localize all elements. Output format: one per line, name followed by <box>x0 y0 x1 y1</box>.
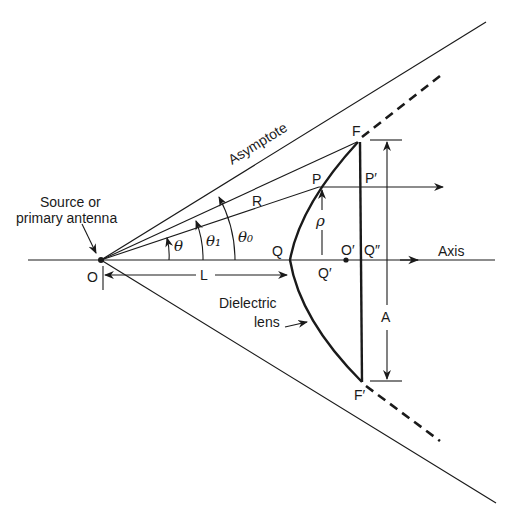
source-point <box>98 257 104 263</box>
label-Q-prime: Q′ <box>318 265 332 281</box>
hyperbola-extension-lower <box>366 386 440 441</box>
label-F-prime: F′ <box>354 387 366 403</box>
label-theta0: θ₀ <box>238 228 253 246</box>
upper-asymptote <box>101 22 486 260</box>
focus-point-O-prime <box>343 257 348 262</box>
label-Q-double-prime: Q″ <box>364 242 380 258</box>
label-theta1: θ₁ <box>206 232 221 250</box>
label-O-prime: O′ <box>341 242 355 258</box>
label-rho: ρ <box>315 212 325 230</box>
label-lens: lens <box>254 314 280 330</box>
label-asymptote: Asymptote <box>225 119 290 167</box>
label-A: A <box>381 309 391 325</box>
label-primary-antenna: primary antenna <box>16 210 117 226</box>
label-source: Source or <box>40 194 101 210</box>
lens-flat-face <box>360 142 362 382</box>
label-F: F <box>352 123 361 139</box>
label-dielectric: Dielectric <box>219 295 277 311</box>
label-L: L <box>200 267 208 283</box>
label-O: O <box>87 269 98 285</box>
label-Q: Q <box>272 243 283 259</box>
label-axis: Axis <box>438 243 464 259</box>
lens-hyperbolic-surface <box>290 142 362 382</box>
label-P: P <box>312 171 321 187</box>
theta-arc <box>167 238 169 260</box>
label-R: R <box>252 193 262 209</box>
hyperbola-extension-upper <box>362 76 440 137</box>
label-P-prime: P′ <box>365 170 377 186</box>
source-pointer-arrow <box>82 224 96 253</box>
lower-asymptote <box>101 260 496 503</box>
lens-diagram: Source or primary antenna Asymptote Axis… <box>0 0 516 512</box>
label-theta: θ <box>174 237 183 255</box>
theta0-arc <box>219 197 235 260</box>
lens-pointer-arrow <box>285 322 307 327</box>
